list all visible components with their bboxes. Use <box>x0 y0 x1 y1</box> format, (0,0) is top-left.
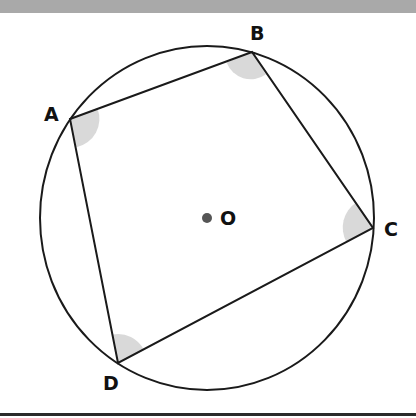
label-o: O <box>220 207 236 229</box>
angle-marker-b <box>227 52 266 79</box>
label-b: B <box>250 22 264 44</box>
label-d: D <box>103 372 119 394</box>
cyclic-quadrilateral-diagram: O A B C D <box>0 0 416 418</box>
label-a: A <box>44 103 59 125</box>
label-c: C <box>384 218 398 240</box>
center-dot <box>202 213 212 223</box>
bottom-rule <box>0 413 416 416</box>
